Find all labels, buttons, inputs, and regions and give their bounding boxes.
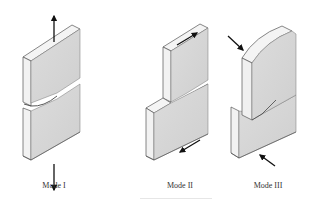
mode-1-label: Mode I: [42, 181, 65, 190]
mode-2-specimen: [146, 24, 208, 160]
mode-3-arrow-top-icon: [228, 36, 243, 50]
mode-3-arrow-bottom-icon: [260, 155, 275, 166]
mode-3-specimen: [228, 26, 296, 166]
mode-3-label: Mode III: [254, 181, 283, 190]
divider: [140, 198, 212, 199]
mode-2-label: Mode II: [167, 181, 193, 190]
fracture-modes-diagram: [0, 0, 310, 203]
mode-1-specimen: [23, 16, 80, 190]
